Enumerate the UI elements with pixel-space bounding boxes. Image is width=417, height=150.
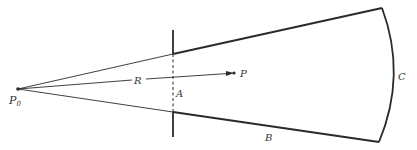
label-c: C xyxy=(398,71,406,82)
cone-upper-edge-inner xyxy=(18,54,173,89)
label-r: R xyxy=(133,75,142,86)
vector-r-left xyxy=(18,80,132,89)
label-p: P xyxy=(239,68,247,79)
vector-r-right xyxy=(146,74,228,80)
cone-upper-edge-outer xyxy=(173,8,382,54)
label-a: A xyxy=(175,88,183,99)
label-b: B xyxy=(264,132,272,143)
point-p-dot xyxy=(232,71,235,74)
label-p0: P0 xyxy=(8,94,21,108)
cone-lower-edge-inner xyxy=(18,89,173,112)
surface-b-edge xyxy=(173,112,379,142)
surface-c-arc xyxy=(379,8,394,142)
cone-diagram: P0 R P A B C xyxy=(0,0,417,150)
point-p0-dot xyxy=(16,87,20,91)
diagram-canvas: P0 R P A B C xyxy=(0,0,417,150)
